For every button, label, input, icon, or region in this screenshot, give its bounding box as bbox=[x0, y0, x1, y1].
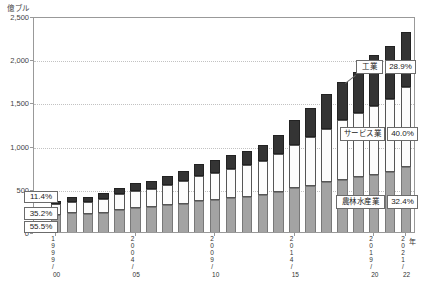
segment-農林水産業-2010/11 bbox=[226, 198, 237, 232]
segment-サービス業-2011/12 bbox=[242, 165, 253, 196]
segment-工業-2011/12 bbox=[242, 151, 253, 166]
segment-農林水産業-2009/10 bbox=[210, 200, 221, 232]
x-tick-label-2019: 2019/20 bbox=[366, 236, 376, 279]
segment-農林水産業-2007/08 bbox=[178, 204, 189, 233]
segment-工業-2005/06 bbox=[146, 181, 157, 189]
segment-農林水産業-2008/09 bbox=[194, 201, 205, 232]
y-tick-mark-0 bbox=[30, 233, 33, 234]
segment-サービス業-2012/13 bbox=[258, 161, 269, 195]
bar-2002/03 bbox=[98, 193, 109, 232]
bar-2011/12 bbox=[242, 151, 253, 232]
segment-工業-2013/14 bbox=[273, 135, 284, 154]
segment-工業-2009/10 bbox=[210, 160, 221, 173]
bar-2006/07 bbox=[162, 176, 173, 232]
bar-2013/14 bbox=[273, 135, 284, 232]
segment-工業-2016/17 bbox=[321, 94, 332, 129]
segment-工業-2018/19 bbox=[353, 72, 364, 113]
segment-農林水産業-2016/17 bbox=[321, 182, 332, 232]
bar-2000/01 bbox=[67, 197, 78, 232]
x-tick-label-year-suffix: 年 bbox=[409, 236, 416, 246]
segment-サービス業-2005/06 bbox=[146, 189, 157, 207]
x-tick-mark-2019 bbox=[373, 233, 374, 236]
segment-農林水産業-2004/05 bbox=[130, 208, 141, 232]
bar-2008/09 bbox=[194, 164, 205, 232]
segment-サービス業-2010/11 bbox=[226, 169, 237, 198]
segment-サービス業-2014/15 bbox=[289, 145, 300, 188]
segment-サービス業-2018/19 bbox=[353, 113, 364, 177]
y-tick-label-2500: 2,500 bbox=[1, 13, 29, 22]
bar-2017/18 bbox=[337, 82, 348, 232]
bar-2016/17 bbox=[321, 94, 332, 232]
x-tick-label-2004: 2004/05 bbox=[128, 236, 138, 279]
segment-工業-2015/16 bbox=[305, 108, 316, 137]
segment-農林水産業-2002/03 bbox=[98, 213, 109, 232]
label-industry-pct: 28.9% bbox=[385, 60, 416, 74]
segment-サービス業-2007/08 bbox=[178, 181, 189, 203]
bar-2012/13 bbox=[258, 145, 269, 232]
segment-農林水産業-2005/06 bbox=[146, 207, 157, 232]
segment-サービス業-2006/07 bbox=[162, 185, 173, 205]
segment-工業-2010/11 bbox=[226, 155, 237, 169]
x-tick-mark-2014 bbox=[294, 233, 295, 236]
label-agriculture-pct: 32.4% bbox=[387, 195, 418, 209]
label-agriculture-name: 農林水産業 bbox=[336, 195, 385, 209]
callout-1999-industry-pct: 11.4% bbox=[24, 191, 58, 203]
label-services-pct: 40.0% bbox=[387, 127, 418, 141]
segment-工業-2008/09 bbox=[194, 164, 205, 176]
gdp-by-sector-stacked-bar-chart: 億ブル 05001,0001,5002,0002,500 1999/002004… bbox=[0, 0, 421, 286]
segment-サービス業-2015/16 bbox=[305, 137, 316, 185]
segment-農林水産業-2011/12 bbox=[242, 197, 253, 232]
segment-サービス業-2016/17 bbox=[321, 129, 332, 183]
label-industry-name: 工業 bbox=[356, 60, 383, 74]
segment-サービス業-2001/02 bbox=[83, 202, 94, 214]
y-axis-unit-label: 億ブル bbox=[7, 2, 30, 13]
bar-2001/02 bbox=[83, 197, 94, 232]
x-tick-label-2009: 2009/10 bbox=[207, 236, 217, 279]
x-tick-label-1999: 1999/00 bbox=[48, 236, 58, 279]
segment-サービス業-2009/10 bbox=[210, 173, 221, 200]
segment-工業-2004/05 bbox=[130, 183, 141, 191]
segment-サービス業-2013/14 bbox=[273, 154, 284, 192]
y-tick-mark-1500 bbox=[30, 103, 33, 104]
y-tick-label-1000: 1,000 bbox=[1, 143, 29, 152]
segment-農林水産業-2012/13 bbox=[258, 195, 269, 232]
y-tick-label-2000: 2,000 bbox=[1, 56, 29, 65]
segment-農林水産業-2015/16 bbox=[305, 186, 316, 232]
x-tick-label-2014: 2014/15 bbox=[287, 236, 297, 279]
label-services-name: サービス業 bbox=[340, 127, 385, 141]
bar-2005/06 bbox=[146, 181, 157, 232]
segment-工業-2017/18 bbox=[337, 82, 348, 120]
segment-サービス業-2008/09 bbox=[194, 176, 205, 201]
segment-農林水産業-2001/02 bbox=[83, 214, 94, 232]
segment-サービス業-2004/05 bbox=[130, 191, 141, 208]
x-tick-mark-2021 bbox=[405, 233, 406, 236]
bar-2014/15 bbox=[289, 120, 300, 232]
segment-サービス業-2002/03 bbox=[98, 199, 109, 212]
callout-1999-agriculture-pct: 55.5% bbox=[24, 221, 58, 233]
segment-工業-2003/04 bbox=[114, 188, 125, 195]
segment-農林水産業-2006/07 bbox=[162, 205, 173, 232]
segment-サービス業-2003/04 bbox=[114, 194, 125, 210]
segment-工業-2012/13 bbox=[258, 145, 269, 161]
segment-サービス業-2000/01 bbox=[67, 202, 78, 214]
segment-農林水産業-2014/15 bbox=[289, 188, 300, 232]
x-tick-label-2021: 2021/22 bbox=[398, 236, 408, 279]
y-tick-mark-2500 bbox=[30, 17, 33, 18]
segment-工業-2014/15 bbox=[289, 120, 300, 145]
segment-工業-2006/07 bbox=[162, 176, 173, 186]
bar-2010/11 bbox=[226, 155, 237, 232]
y-tick-mark-1000 bbox=[30, 147, 33, 148]
bar-2009/10 bbox=[210, 160, 221, 232]
segment-農林水産業-2000/01 bbox=[67, 213, 78, 232]
segment-農林水産業-2003/04 bbox=[114, 210, 125, 232]
bar-2003/04 bbox=[114, 188, 125, 232]
bar-2004/05 bbox=[130, 183, 141, 232]
segment-農林水産業-2013/14 bbox=[273, 192, 284, 232]
y-tick-label-1500: 1,500 bbox=[1, 99, 29, 108]
x-tick-mark-2004 bbox=[135, 233, 136, 236]
y-tick-mark-2000 bbox=[30, 60, 33, 61]
bar-2015/16 bbox=[305, 108, 316, 232]
x-tick-mark-2009 bbox=[214, 233, 215, 236]
x-tick-mark-1999 bbox=[55, 233, 56, 236]
callout-1999-services-pct: 35.2% bbox=[24, 207, 58, 220]
